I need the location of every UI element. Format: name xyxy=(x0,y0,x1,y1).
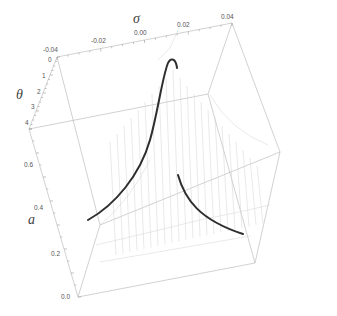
a-axis: 0.0 0.2 0.4 0.6 a xyxy=(24,129,81,300)
sigma-tick-label: 0.00 xyxy=(134,29,147,36)
theta-tick-label: 0 xyxy=(48,56,52,63)
a-tick-label: 0.2 xyxy=(51,250,60,257)
a-tick-label: 0.0 xyxy=(61,293,70,300)
theta-tick-label: 1 xyxy=(42,72,46,79)
sigma-axis: -0.04 -0.02 0.00 0.02 0.04 σ xyxy=(43,11,234,60)
surface-mesh xyxy=(96,30,270,262)
theta-tick-label: 2 xyxy=(37,88,41,95)
theta-tick-label: 4 xyxy=(25,119,29,126)
theta-tick-label: 3 xyxy=(31,103,35,110)
curve-left-branch xyxy=(88,59,177,220)
sigma-tick-label: 0.04 xyxy=(221,13,234,20)
a-tick-label: 0.6 xyxy=(24,161,33,168)
sigma-tick-label: 0.02 xyxy=(177,21,190,28)
sigma-tick-label: -0.04 xyxy=(43,46,58,53)
a-tick-label: 0.4 xyxy=(34,204,43,211)
sigma-axis-label: σ xyxy=(133,11,141,26)
3d-plot: -0.04 -0.02 0.00 0.02 0.04 σ 0 1 2 3 4 θ… xyxy=(0,0,337,316)
theta-axis-label: θ xyxy=(16,87,23,102)
a-axis-label: a xyxy=(28,212,35,227)
sigma-tick-label: -0.02 xyxy=(91,37,106,44)
